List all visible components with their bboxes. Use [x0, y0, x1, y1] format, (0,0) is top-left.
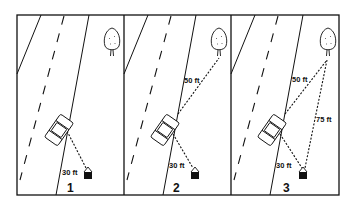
- measurement-line: [305, 60, 327, 168]
- house-icon: [299, 167, 307, 179]
- panel-number: 3: [283, 181, 290, 195]
- panel-number: 1: [67, 181, 74, 195]
- road-edge-left: [17, 15, 41, 74]
- distance-label: 30 ft: [62, 168, 78, 177]
- tree-icon: [211, 28, 226, 56]
- panel-2: 50 ft 30 ft 2: [124, 15, 227, 195]
- lane-divider: [234, 16, 278, 180]
- house-icon: [84, 167, 92, 179]
- distance-label: 50 ft: [184, 76, 200, 85]
- distance-diagram: 30 ft 1 50 ft 30 ft 2 50 ft 75 ft 30 ft …: [0, 0, 350, 202]
- measurement-line: [67, 131, 86, 168]
- house-icon: [191, 167, 199, 179]
- lane-divider: [127, 16, 171, 180]
- road-edge-left: [231, 15, 255, 74]
- car-icon: [257, 114, 286, 146]
- car-icon: [44, 114, 73, 146]
- measurement-line: [285, 60, 327, 114]
- measurement-line: [178, 58, 219, 114]
- panel-1: 30 ft 1: [17, 15, 120, 195]
- distance-label: 75 ft: [316, 115, 332, 124]
- distance-label: 30 ft: [169, 161, 185, 170]
- panel-number: 2: [173, 181, 180, 195]
- tree-icon: [320, 28, 335, 56]
- tree-icon: [104, 28, 119, 56]
- distance-label: 50 ft: [292, 75, 308, 84]
- panel-3: 50 ft 75 ft 30 ft 3: [231, 15, 336, 195]
- lane-divider: [20, 16, 64, 180]
- distance-label: 30 ft: [276, 161, 292, 170]
- road-edge-left: [124, 15, 148, 74]
- car-icon: [150, 114, 179, 146]
